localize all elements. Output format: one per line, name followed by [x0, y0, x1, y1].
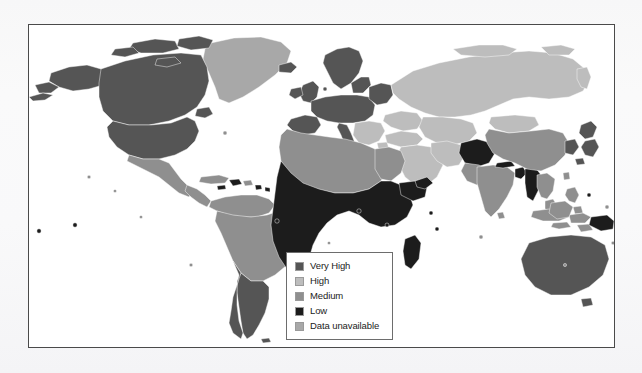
legend-item-low[interactable]: Low [295, 304, 385, 318]
legend-swatch-data-unavailable [295, 322, 304, 331]
legend-label-medium: Medium [310, 291, 343, 301]
legend-swatch-high [295, 277, 304, 286]
legend-item-medium[interactable]: Medium [295, 289, 385, 303]
map-frame: Very High High Medium Low Data unavailab… [28, 24, 615, 348]
legend-item-data-unavailable[interactable]: Data unavailable [295, 319, 385, 333]
legend-label-very-high: Very High [310, 261, 350, 271]
page-root: Very High High Medium Low Data unavailab… [0, 0, 642, 373]
legend-item-high[interactable]: High [295, 274, 385, 288]
legend-item-very-high[interactable]: Very High [295, 259, 385, 273]
legend-label-low: Low [310, 306, 327, 316]
legend-label-data-unavailable: Data unavailable [310, 321, 379, 331]
legend-swatch-very-high [295, 262, 304, 271]
legend-swatch-low [295, 307, 304, 316]
legend-label-high: High [310, 276, 329, 286]
legend-swatch-medium [295, 292, 304, 301]
map-legend: Very High High Medium Low Data unavailab… [286, 252, 393, 340]
